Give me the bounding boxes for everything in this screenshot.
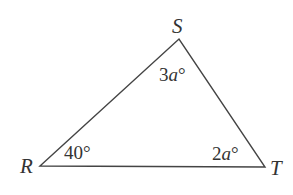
angle-s-coef: 3 [159,64,169,85]
angle-label-t: 2a° [212,143,239,164]
vertex-label-r: R [19,154,33,178]
angle-label-s: 3a° [159,64,186,85]
angle-r-value: 40 [64,142,83,163]
triangle-diagram: S R T 3a° 40° 2a° [0,0,293,195]
angle-s-deg: ° [178,64,186,85]
angle-t-coef: 2 [212,143,222,164]
angle-label-r: 40° [64,142,91,163]
angle-t-var: a [222,143,232,164]
vertex-label-s: S [172,14,183,38]
angle-r-deg: ° [83,142,91,163]
angle-s-var: a [169,64,179,85]
angle-t-deg: ° [231,143,239,164]
vertex-label-t: T [270,156,283,180]
